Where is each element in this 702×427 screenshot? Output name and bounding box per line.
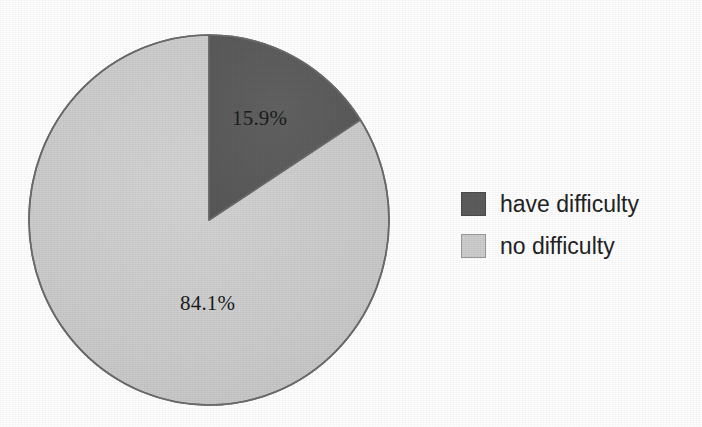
legend-swatch-light-icon <box>461 234 486 258</box>
pie-chart-figure: 15.9% 84.1% have difficulty no difficult… <box>0 0 702 427</box>
chart-legend: have difficulty no difficulty <box>461 183 696 267</box>
legend-swatch-dark-icon <box>461 192 486 216</box>
legend-label-no-difficulty: no difficulty <box>500 235 615 258</box>
legend-label-have-difficulty: have difficulty <box>500 193 639 216</box>
legend-item-have-difficulty[interactable]: have difficulty <box>461 183 696 225</box>
pie-chart-svg <box>0 0 430 427</box>
pie-slice-label-have-difficulty: 15.9% <box>232 106 287 131</box>
legend-item-no-difficulty[interactable]: no difficulty <box>461 225 696 267</box>
pie-chart-plot-area: 15.9% 84.1% <box>0 0 430 427</box>
pie-slice-label-no-difficulty: 84.1% <box>180 291 235 316</box>
